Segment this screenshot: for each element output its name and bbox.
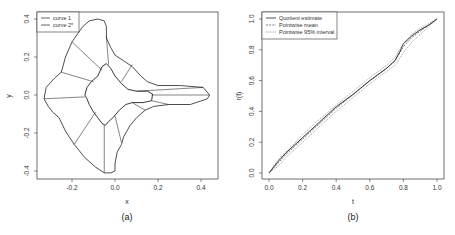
panel-b: 0.00.20.40.60.81.0 0.00.20.40.60.81.0 t … [235, 12, 444, 222]
x-tick-label-a: 0.0 [110, 184, 119, 191]
y-tick-label-a: 0.2 [23, 52, 30, 61]
curve-2 [85, 64, 153, 126]
y-tick-label-a: 0.4 [23, 14, 30, 23]
x-tick-label-a: 0.4 [196, 184, 205, 191]
curves-a [44, 19, 210, 173]
x-tick-label-b: 0.0 [264, 184, 273, 191]
correspondence-line [152, 101, 169, 105]
correspondence-line [121, 65, 132, 82]
y-tick-label-b: 0.8 [248, 45, 255, 54]
y-tick-label-a: -0.2 [23, 127, 30, 139]
x-tick-label-b: 1.0 [432, 184, 441, 191]
x-tick-label-b: 0.4 [332, 184, 341, 191]
x-axis-a: -0.20.00.20.4 [66, 179, 205, 191]
y-axis-a: -0.4-0.20.00.20.4 [23, 14, 37, 176]
x-tick-label-b: 0.6 [365, 184, 374, 191]
y-axis-b: 0.00.20.40.60.81.0 [248, 14, 262, 177]
panel-a: -0.20.00.20.4 -0.4-0.20.00.20.4 x y (a) … [5, 12, 218, 222]
legend-a: curve 1 curve 2* [37, 12, 79, 32]
x-axis-b: 0.00.20.40.60.81.0 [264, 179, 441, 191]
y-tick-label-a: 0.0 [23, 90, 30, 99]
y-tick-label-b: 0.0 [248, 168, 255, 177]
plot-frame-a [37, 12, 218, 179]
legend-label-mean: Pointwise mean [279, 22, 318, 28]
y-axis-label-a: y [5, 94, 13, 98]
legend-b: Quotient estimate Pointwise mean Pointwi… [262, 12, 337, 39]
legend-label-curve-1: curve 1 [53, 15, 71, 21]
legend-label-quotient: Quotient estimate [279, 15, 322, 21]
correspondence-line [44, 97, 85, 99]
x-tick-label-a: -0.2 [66, 184, 78, 191]
correspondence-line [115, 116, 121, 143]
y-tick-label-b: 1.0 [248, 14, 255, 23]
correspondence-line [61, 72, 93, 82]
x-axis-label-b: t [352, 198, 354, 205]
panel-label-a: (a) [122, 212, 133, 222]
correspondence-line [74, 112, 96, 144]
x-tick-label-a: 0.2 [153, 184, 162, 191]
y-tick-label-b: 0.6 [248, 76, 255, 85]
x-tick-label-b: 0.8 [399, 184, 408, 191]
legend-label-curve-2: curve 2* [53, 22, 74, 28]
correspondence-line [137, 87, 204, 91]
x-tick-label-b: 0.2 [298, 184, 307, 191]
panel-label-b: (b) [348, 212, 359, 222]
curves-b [269, 19, 437, 173]
x-axis-label-a: x [125, 198, 129, 205]
correspondence-line [72, 42, 102, 71]
figure: -0.20.00.20.4 -0.4-0.20.00.20.4 x y (a) … [0, 0, 455, 235]
interval-lower-line [269, 19, 437, 173]
correspondence-line [132, 103, 145, 111]
y-axis-label-b: r(t) [235, 92, 243, 101]
y-tick-label-b: 0.2 [248, 137, 255, 146]
curve-1 [44, 19, 210, 173]
y-tick-label-a: -0.4 [23, 165, 30, 177]
legend-label-interval: Pointwise 95% interval [279, 29, 334, 35]
y-tick-label-b: 0.4 [248, 107, 255, 116]
